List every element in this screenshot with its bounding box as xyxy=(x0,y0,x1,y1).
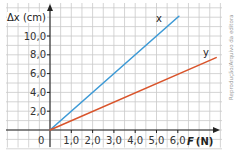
axis-ticks xyxy=(47,36,178,133)
y-tick-label: 6,0 xyxy=(30,68,46,79)
credit-text: Reprodução/Arquivo da editora xyxy=(228,14,235,100)
y-axis-label: Δx (cm) xyxy=(7,12,46,23)
x-tick-label: 5,0 xyxy=(149,135,165,146)
x-axis-arrow-icon xyxy=(213,127,220,133)
x-axis-label: F(N) xyxy=(187,136,213,147)
series-x-label: x xyxy=(156,13,162,24)
x-axis-unit: (N) xyxy=(196,136,214,147)
x-tick-label: 3,0 xyxy=(106,135,122,146)
x-axis-variable: F xyxy=(187,136,194,147)
series-y-label: y xyxy=(203,47,209,58)
y-tick-label: 10,0 xyxy=(24,31,46,42)
y-tick-label: 2,0 xyxy=(30,106,46,117)
chart: 1,02,03,04,05,06,02,04,06,08,010,0 Δx (c… xyxy=(0,0,239,154)
series-x-line xyxy=(50,16,179,130)
origin-label: 0 xyxy=(38,135,44,146)
x-tick-label: 6,0 xyxy=(170,135,186,146)
y-tick-label: 4,0 xyxy=(30,87,46,98)
x-tick-label: 2,0 xyxy=(85,135,101,146)
tick-labels: 1,02,03,04,05,06,02,04,06,08,010,0 xyxy=(24,31,186,147)
x-tick-label: 1,0 xyxy=(63,135,79,146)
y-tick-label: 8,0 xyxy=(30,49,46,60)
x-tick-label: 4,0 xyxy=(127,135,143,146)
series-y-line xyxy=(50,58,216,130)
